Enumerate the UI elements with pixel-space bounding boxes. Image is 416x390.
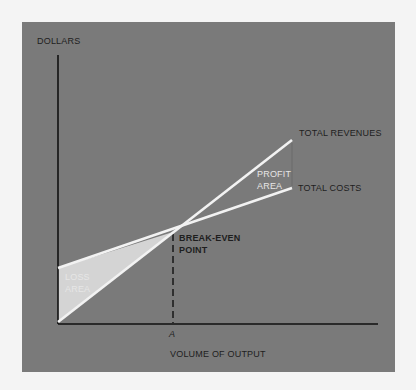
loss-area-label-line2: AREA (65, 284, 90, 295)
chart-plot (0, 0, 416, 390)
y-axis-label: DOLLARS (37, 36, 80, 47)
loss-area-label-line1: LOSS (65, 272, 90, 283)
x-axis-label: VOLUME OF OUTPUT (170, 349, 266, 360)
x-tick-a: A (169, 329, 175, 340)
breakeven-label-line2: POINT (179, 245, 208, 256)
total-revenues-line (58, 140, 292, 322)
total-costs-line (58, 188, 292, 268)
total-costs-label: TOTAL COSTS (298, 183, 362, 194)
breakeven-label-line1: BREAK-EVEN (179, 233, 241, 244)
profit-area-label-line2: AREA (257, 181, 282, 192)
profit-area-label-line1: PROFIT (257, 169, 291, 180)
total-revenues-label: TOTAL REVENUES (299, 128, 382, 139)
